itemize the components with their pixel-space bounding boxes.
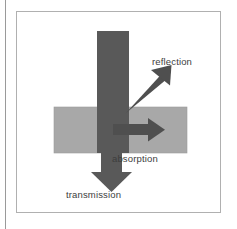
figure-frame: reflection absorption transmission xyxy=(16,11,221,213)
reflection-label: reflection xyxy=(152,56,192,67)
transmission-label: transmission xyxy=(66,189,121,200)
page-root: reflection absorption transmission xyxy=(0,0,237,229)
absorption-label: absorption xyxy=(112,153,158,164)
page-margin-rule xyxy=(5,0,6,229)
incident-beam xyxy=(97,31,129,119)
figure-canvas xyxy=(17,12,222,214)
absorption-arrow-shaft xyxy=(113,124,150,135)
